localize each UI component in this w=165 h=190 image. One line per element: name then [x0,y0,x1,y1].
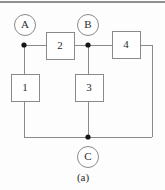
component-layer: 1234 [11,31,140,101]
terminal-B[interactable]: B [78,15,99,36]
terminal-C[interactable]: C [78,147,99,168]
circuit-diagram-canvas: 1234 ABC (a) [0,0,165,190]
terminal-label-A: A [21,18,29,30]
component-3[interactable]: 3 [75,74,103,101]
junction-node-c [85,134,90,139]
circuit-figure: 1234 ABC (a) [0,0,165,190]
component-label-4: 4 [123,38,129,50]
junction-node-a [21,42,26,47]
terminal-label-C: C [84,150,91,162]
component-label-3: 3 [86,81,92,93]
terminal-label-B: B [84,18,91,30]
junction-node-b [85,42,90,47]
figure-caption: (a) [77,171,90,184]
component-4[interactable]: 4 [112,31,140,58]
component-1[interactable]: 1 [11,74,39,101]
component-label-1: 1 [22,81,28,93]
component-label-2: 2 [57,39,63,51]
component-2[interactable]: 2 [46,32,74,59]
terminal-A[interactable]: A [15,15,36,36]
